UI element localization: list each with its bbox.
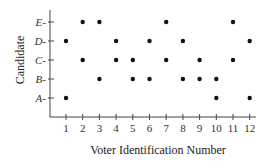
data-point xyxy=(64,39,68,43)
x-tick-label: 12 xyxy=(244,122,255,134)
data-point xyxy=(147,77,151,81)
x-tick-label: 6 xyxy=(147,122,153,134)
data-point xyxy=(214,77,218,81)
data-point xyxy=(147,39,151,43)
data-point xyxy=(64,96,68,100)
x-tick-label: 10 xyxy=(211,122,223,134)
data-point xyxy=(197,77,201,81)
x-tick-label: 1 xyxy=(63,122,69,134)
data-point xyxy=(164,20,168,24)
x-tick-label: 3 xyxy=(97,122,103,134)
y-axis-title: Candidate xyxy=(13,36,27,85)
data-point xyxy=(214,96,218,100)
x-tick-label: 7 xyxy=(163,122,169,134)
data-point xyxy=(81,58,85,62)
data-point xyxy=(231,58,235,62)
x-tick-label: 8 xyxy=(180,122,186,134)
data-points xyxy=(64,20,252,100)
axes: 123456789101112A-B-C-D-E- xyxy=(33,10,256,134)
data-point xyxy=(131,77,135,81)
x-tick-label: 2 xyxy=(80,122,86,134)
y-tick-label: D- xyxy=(33,35,46,47)
y-tick-label: C- xyxy=(35,54,46,66)
data-point xyxy=(181,39,185,43)
scatter-chart: 123456789101112A-B-C-D-E- Voter Identifi… xyxy=(0,0,271,163)
data-point xyxy=(131,58,135,62)
y-tick-label: B- xyxy=(36,73,47,85)
data-point xyxy=(248,39,252,43)
x-tick-label: 5 xyxy=(130,122,136,134)
data-point xyxy=(181,77,185,81)
data-point xyxy=(97,20,101,24)
x-tick-label: 4 xyxy=(113,122,119,134)
data-point xyxy=(164,58,168,62)
data-point xyxy=(81,20,85,24)
data-point xyxy=(231,20,235,24)
x-tick-label: 9 xyxy=(197,122,203,134)
y-tick-label: E- xyxy=(35,16,47,28)
data-point xyxy=(114,39,118,43)
data-point xyxy=(114,58,118,62)
data-point xyxy=(97,77,101,81)
data-point xyxy=(248,96,252,100)
x-axis-title: Voter Identification Number xyxy=(90,143,226,157)
data-point xyxy=(197,58,201,62)
x-tick-label: 11 xyxy=(228,122,239,134)
y-tick-label: A- xyxy=(35,92,47,104)
